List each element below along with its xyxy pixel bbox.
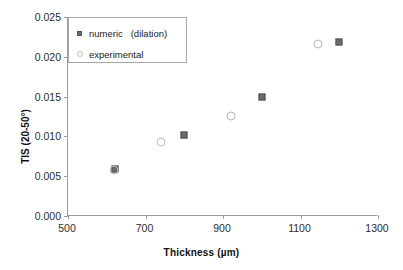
- data-point-experimental: [157, 137, 166, 146]
- chart-legend: numeric (dilation) experimental: [68, 17, 187, 63]
- data-point-experimental: [109, 165, 118, 174]
- y-axis-tick-label: 0.005: [35, 170, 67, 182]
- filled-square-icon: [77, 31, 89, 36]
- y-axis-title-text: TIS (20-50°): [20, 109, 31, 164]
- x-axis-tick: [301, 215, 302, 219]
- y-axis-tick-label: 0.020: [35, 51, 67, 63]
- data-point-numeric: [181, 131, 188, 138]
- legend-entry-experimental: experimental: [77, 45, 186, 63]
- y-axis-title: TIS (20-50°): [0, 126, 16, 144]
- x-axis-tick-label: 500: [58, 222, 76, 234]
- y-axis-tick-label: 0.025: [35, 11, 67, 23]
- x-axis-tick-label: 700: [136, 222, 154, 234]
- y-axis-tick-label: 0.015: [35, 91, 67, 103]
- open-circle-icon: [77, 51, 89, 57]
- data-point-experimental: [226, 111, 235, 120]
- data-point-numeric: [336, 39, 343, 46]
- x-axis-tick: [378, 215, 379, 219]
- x-axis-tick-label: 1100: [288, 222, 311, 234]
- chart-figure: TIS (20-50°) numeric (dilation) experime…: [0, 0, 403, 270]
- x-axis-tick: [68, 215, 69, 219]
- y-axis-tick-label: 0.000: [35, 210, 67, 222]
- data-point-numeric: [258, 94, 265, 101]
- y-axis-tick-label: 0.010: [35, 130, 67, 142]
- x-axis-tick: [223, 215, 224, 219]
- data-point-experimental: [313, 40, 322, 49]
- x-axis-tick-label: 1300: [365, 222, 388, 234]
- x-axis-tick: [146, 215, 147, 219]
- legend-label-numeric: numeric (dilation): [89, 28, 167, 39]
- legend-entry-numeric: numeric (dilation): [77, 24, 186, 42]
- legend-label-experimental: experimental: [89, 49, 143, 60]
- x-axis-title: Thickness (µm): [0, 247, 403, 258]
- x-axis-tick-label: 900: [213, 222, 231, 234]
